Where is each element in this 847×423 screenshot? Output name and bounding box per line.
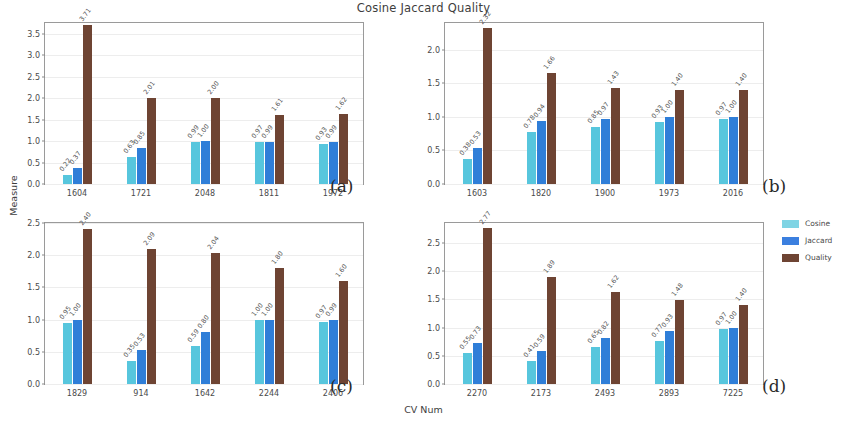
legend-item[interactable]: Jaccard — [782, 236, 846, 245]
bar-cosine[interactable] — [463, 353, 472, 384]
bar-quality[interactable] — [275, 115, 284, 184]
bar-cosine[interactable] — [719, 329, 728, 384]
bar-quality[interactable] — [211, 98, 220, 184]
bar-group: 0.970.991.61 — [255, 23, 284, 184]
bar-cosine[interactable] — [255, 320, 264, 384]
bar-value-label: 1.40 — [733, 287, 748, 303]
bar-jaccard[interactable] — [201, 332, 210, 384]
bar-cosine[interactable] — [319, 144, 328, 184]
y-tick-mark — [442, 355, 445, 356]
chart-panel-d: 0.00.51.01.52.02.50.550.732.7722700.410.… — [444, 222, 764, 385]
x-tick-label: 2270 — [467, 389, 487, 398]
bar-value-label: 1.89 — [541, 259, 556, 275]
y-tick-mark — [442, 49, 445, 50]
bar-jaccard[interactable] — [729, 328, 738, 384]
bar-quality[interactable] — [739, 90, 748, 184]
legend-item[interactable]: Quality — [782, 253, 846, 262]
bar-cosine[interactable] — [527, 132, 536, 184]
bar-jaccard[interactable] — [137, 148, 146, 184]
y-tick-mark — [442, 384, 445, 385]
bar-value-label: 0.82 — [595, 319, 610, 335]
figure-canvas: Cosine Jaccard Quality Measure CV Num 0.… — [0, 0, 847, 423]
bar-cosine[interactable] — [719, 119, 728, 184]
bar-jaccard[interactable] — [137, 350, 146, 384]
bar-jaccard[interactable] — [473, 148, 482, 184]
bar-jaccard[interactable] — [265, 320, 274, 384]
panel-tag-a: (a) — [330, 176, 353, 196]
bar-group: 0.770.931.48 — [655, 223, 684, 384]
chart-panel-b: 0.00.51.01.52.00.380.532.3216030.780.941… — [444, 22, 764, 185]
gridline — [445, 184, 763, 185]
bar-jaccard[interactable] — [601, 119, 610, 184]
bar-quality[interactable] — [339, 281, 348, 384]
bar-quality[interactable] — [83, 25, 92, 184]
y-tick-mark — [42, 55, 45, 56]
bar-quality[interactable] — [275, 268, 284, 384]
bar-value-label: 1.60 — [333, 263, 348, 279]
bar-jaccard[interactable] — [73, 168, 82, 184]
bar-jaccard[interactable] — [201, 141, 210, 184]
y-tick-label: 1.0 — [427, 112, 440, 121]
legend-item[interactable]: Cosine — [782, 219, 846, 228]
bar-cosine[interactable] — [591, 347, 600, 384]
bar-cosine[interactable] — [191, 346, 200, 384]
bar-cosine[interactable] — [527, 361, 536, 384]
x-axis-label: CV Num — [0, 404, 847, 415]
bar-quality[interactable] — [547, 277, 556, 384]
bar-quality[interactable] — [83, 229, 92, 384]
bar-quality[interactable] — [547, 73, 556, 184]
bar-jaccard[interactable] — [665, 331, 674, 384]
y-tick-label: 2.5 — [27, 72, 40, 81]
bar-jaccard[interactable] — [73, 320, 82, 384]
bar-quality[interactable] — [675, 300, 684, 384]
legend-swatch-cosine — [782, 220, 799, 228]
x-tick-label: 2893 — [659, 389, 679, 398]
bar-cosine[interactable] — [319, 322, 328, 384]
bar-jaccard[interactable] — [537, 121, 546, 184]
bar-cosine[interactable] — [255, 142, 264, 184]
bar-jaccard[interactable] — [329, 320, 338, 384]
panel-tag-c: (c) — [330, 376, 353, 396]
y-tick-label: 0.0 — [27, 180, 40, 189]
bar-quality[interactable] — [483, 28, 492, 184]
bar-quality[interactable] — [483, 228, 492, 384]
bar-value-label: 1.48 — [669, 282, 684, 298]
bar-cosine[interactable] — [127, 157, 136, 184]
bar-group: 0.930.991.62 — [319, 23, 348, 184]
y-tick-mark — [42, 76, 45, 77]
x-tick-label: 1721 — [131, 189, 151, 198]
x-tick-label: 1604 — [67, 189, 87, 198]
bar-cosine[interactable] — [63, 323, 72, 384]
bar-quality[interactable] — [339, 114, 348, 184]
bar-jaccard[interactable] — [729, 117, 738, 184]
bar-quality[interactable] — [147, 98, 156, 184]
bar-quality[interactable] — [611, 292, 620, 384]
bar-cosine[interactable] — [63, 175, 72, 184]
bar-quality[interactable] — [675, 90, 684, 184]
legend-label-quality: Quality — [805, 253, 832, 262]
bar-quality[interactable] — [739, 305, 748, 384]
bar-cosine[interactable] — [655, 341, 664, 384]
bar-value-label: 2.77 — [477, 209, 492, 225]
bar-quality[interactable] — [611, 88, 620, 184]
y-tick-mark — [442, 116, 445, 117]
bar-group: 0.220.373.71 — [63, 23, 92, 184]
bar-cosine[interactable] — [591, 127, 600, 184]
bar-jaccard[interactable] — [537, 351, 546, 384]
bar-cosine[interactable] — [655, 122, 664, 184]
bar-cosine[interactable] — [463, 159, 472, 184]
gridline — [445, 384, 763, 385]
bar-value-label: 1.62 — [605, 274, 620, 290]
bar-jaccard[interactable] — [473, 343, 482, 384]
y-tick-label: 0.5 — [27, 158, 40, 167]
bar-jaccard[interactable] — [265, 142, 274, 185]
bar-jaccard[interactable] — [601, 338, 610, 384]
bar-cosine[interactable] — [191, 142, 200, 185]
bar-cosine[interactable] — [127, 361, 136, 384]
gridline — [45, 384, 363, 385]
bar-value-label: 0.59 — [531, 332, 546, 348]
x-tick-label: 1973 — [659, 189, 679, 198]
bar-jaccard[interactable] — [665, 117, 674, 184]
bar-quality[interactable] — [147, 249, 156, 384]
bar-quality[interactable] — [211, 253, 220, 384]
